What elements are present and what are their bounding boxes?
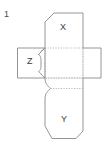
figure-container: 1 X Z Y xyxy=(0,0,110,151)
bottom-flap-outline xyxy=(45,78,83,139)
face-label-z: Z xyxy=(27,56,33,66)
right-flap-outline xyxy=(83,48,101,78)
problem-number: 1 xyxy=(4,9,9,19)
center-face-fold-lines xyxy=(45,48,83,78)
face-label-x: X xyxy=(60,22,66,32)
cube-net-drawing xyxy=(0,0,110,151)
face-label-y: Y xyxy=(61,114,67,124)
